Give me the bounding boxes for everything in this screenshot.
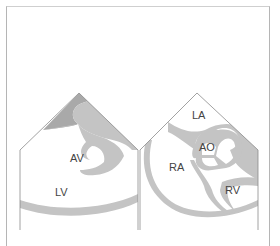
label-rv: RV xyxy=(225,184,241,196)
label-ra: RA xyxy=(169,161,185,173)
label-av: AV xyxy=(70,152,85,164)
label-lv: LV xyxy=(55,186,68,198)
label-la: LA xyxy=(192,109,206,121)
label-ao: AO xyxy=(199,141,215,153)
